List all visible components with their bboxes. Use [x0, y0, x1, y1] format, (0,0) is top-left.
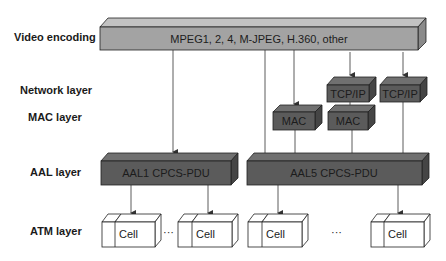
atm-cell-3: Cell — [248, 214, 308, 247]
cell-4-text: Cell — [388, 228, 407, 240]
mac-box-1: MAC — [273, 105, 322, 130]
tcpip-box-1: TCP/IP — [327, 77, 376, 102]
tcpip-1-text: TCP/IP — [330, 88, 365, 100]
cell-3-text: Cell — [266, 228, 285, 240]
label-aal-layer: AAL layer — [30, 166, 82, 178]
mac-box-2: MAC — [328, 105, 375, 130]
label-network-layer: Network layer — [20, 84, 93, 96]
connectors — [131, 50, 403, 213]
video-formats-text: MPEG1, 2, 4, M-JPEG, H.360, other — [170, 33, 348, 45]
label-mac-layer: MAC layer — [28, 111, 83, 123]
label-video-encoding: Video encoding — [14, 31, 96, 43]
aal5-box: AAL5 CPCS-PDU — [247, 153, 429, 185]
cell-1-text: Cell — [119, 228, 138, 240]
mac-2-text: MAC — [336, 115, 361, 127]
video-encoding-box: MPEG1, 2, 4, M-JPEG, H.360, other — [100, 18, 426, 50]
aal1-box: AAL1 CPCS-PDU — [101, 153, 238, 185]
tcpip-box-2: TCP/IP — [380, 77, 427, 102]
tcpip-2-text: TCP/IP — [382, 88, 417, 100]
aal1-text: AAL1 CPCS-PDU — [122, 167, 209, 179]
ellipsis-2: ··· — [331, 226, 342, 238]
aal5-text: AAL5 CPCS-PDU — [290, 167, 377, 179]
mac-1-text: MAC — [282, 115, 307, 127]
diagram-canvas: Video encoding Network layer MAC layer A… — [0, 0, 446, 261]
label-atm-layer: ATM layer — [30, 225, 82, 237]
atm-cell-2: Cell — [178, 214, 238, 247]
ellipsis-1: ··· — [163, 226, 174, 238]
atm-cell-4: Cell — [371, 214, 430, 247]
cell-2-text: Cell — [196, 228, 215, 240]
atm-cell-1: Cell — [102, 214, 161, 247]
